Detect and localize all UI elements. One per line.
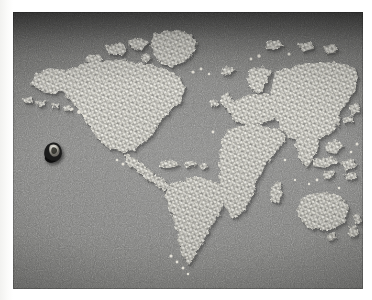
photograph: Photograph of a world map formed from th… [13, 12, 363, 289]
screenshot-root: Photograph of a world map formed from th… [0, 0, 372, 300]
page-margin [0, 0, 13, 300]
pacific-object [40, 140, 68, 167]
photo-content [13, 12, 363, 289]
